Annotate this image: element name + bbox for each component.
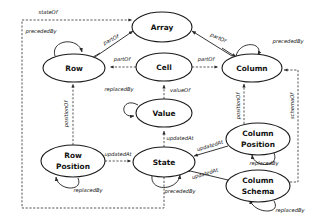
node-cell-shape[interactable] (136, 53, 192, 81)
edge-rowpos-replaced-by[interactable] (56, 177, 79, 188)
node-row[interactable]: Row (43, 54, 105, 82)
node-state[interactable]: State (133, 147, 195, 177)
node-array[interactable]: Array (132, 12, 192, 42)
node-value-shape[interactable] (136, 99, 192, 127)
edge-label-value-replaced-by: replacedBy (104, 86, 134, 93)
edge-label-rowpos-replaced-by: replacedBy (73, 187, 103, 194)
node-column-position[interactable]: Column Position (226, 123, 290, 155)
edge-colschema-schema-of[interactable] (284, 70, 298, 182)
edge-label-colschema-replaced-by: replacedBy (275, 207, 305, 214)
graph-canvas: Array Row Cell Column Value State (0, 0, 323, 223)
edge-label-rowpos-updated-at: updatedAt (104, 151, 132, 158)
edge-label-state-updated-at-value: updatedAt (166, 135, 194, 142)
edge-label-column-position-of: positionOf (235, 92, 242, 121)
edge-label-state-preceded-by: precededBy (163, 188, 196, 195)
node-column-schema[interactable]: Column Schema (226, 170, 290, 202)
edge-label-column-preceded-by: precededBy (271, 38, 304, 45)
node-cell[interactable]: Cell (136, 53, 192, 81)
node-column-shape[interactable] (222, 54, 282, 82)
edge-colpos-updated-at[interactable] (194, 146, 228, 156)
edge-row-part-of-array[interactable] (95, 31, 133, 57)
node-state-shape[interactable] (133, 147, 195, 177)
edge-label-state-of: stateOf (38, 9, 58, 15)
edge-column-part-of-array[interactable] (192, 31, 232, 56)
node-value[interactable]: Value (136, 99, 192, 127)
nodes-layer: Array Row Cell Column Value State (41, 12, 290, 202)
edge-column-part-of-array-head (222, 48, 236, 57)
edge-label-value-of: valueOf (170, 87, 191, 93)
edge-label-cell-part-of-column: partOf (197, 56, 216, 63)
node-row-shape[interactable] (43, 54, 105, 82)
edge-label-colpos-replaced-by: replacedBy (249, 160, 279, 167)
edge-label-row-part-of-array: partOf (101, 33, 121, 47)
edge-label-row-position-of: positionOf (63, 100, 70, 129)
node-column-position-shape[interactable] (226, 123, 290, 155)
ontology-diagram: Array Row Cell Column Value State (0, 0, 323, 223)
edge-label-colschema-updated-at: updatedAt (191, 166, 220, 181)
edge-label-schema-of: schemaOf (289, 92, 295, 119)
node-column-schema-shape[interactable] (226, 170, 290, 202)
node-column[interactable]: Column (222, 54, 282, 82)
edge-label-row-preceded-by: precededBy (24, 28, 57, 35)
node-row-position[interactable]: Row Position (41, 145, 105, 177)
edge-label-cell-part-of-row: partOf (113, 56, 132, 63)
node-array-shape[interactable] (132, 12, 192, 42)
node-row-position-shape[interactable] (41, 145, 105, 177)
edge-colschema-updated-at[interactable] (186, 170, 228, 180)
